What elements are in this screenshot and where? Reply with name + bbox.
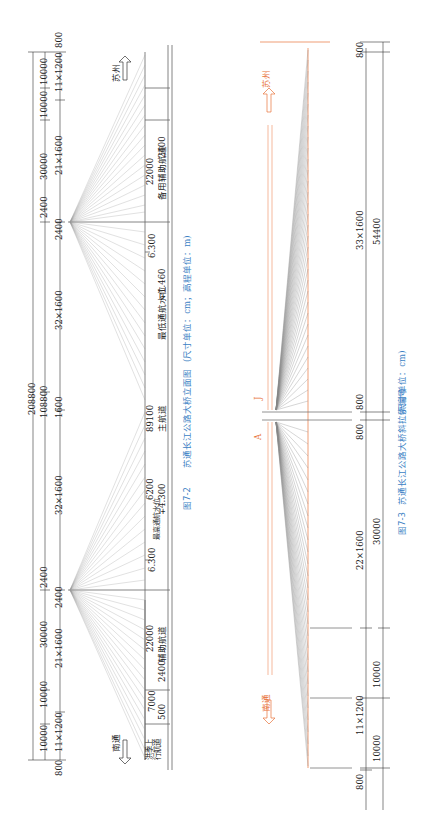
cable-fan-7-3 [276,50,308,766]
dim-tower-bot-2400-b: 2400 [55,586,64,608]
dim-7-3-bot-11x1200: 11×1200 [356,695,365,735]
dim-flood-width: 7000 [148,690,157,712]
dim-tower-top-2400-b: 2400 [55,218,64,240]
direction-suzhou: 苏州 [112,64,121,82]
dim-main-channel-offset: 6200 [146,478,155,500]
dim-bot-11x1200: 11×1200 [55,712,64,752]
dim-top-11x1200: 11×1200 [55,52,64,92]
dim-bot-21x1600: 21×1600 [55,628,64,668]
cable-fan-lower [70,412,145,758]
dim-backup-aux-offset: 2400 [158,136,167,158]
direction-nantong: 南通 [112,734,121,752]
dim-tower-top-2400-a: 2400 [40,196,49,218]
dim-mid-32x1600-b: 32×1600 [55,475,64,515]
dim-7-3-bot-10000-b: 10000 [373,735,382,762]
elev-bottom: 6.300 [148,548,157,572]
dim-total: 208800 [28,383,37,415]
dim-1600: 1600 [55,396,64,418]
cable-number-circles [268,125,272,675]
dim-top-10000-a: 10000 [40,58,49,85]
figure-7-2-title: 苏通长江公路大桥立面图 [183,369,192,468]
dim-mid-32x1600-a: 32×1600 [55,290,64,330]
dim-main-channel-width: 89100 [146,405,155,432]
dim-bot-30000: 30000 [40,621,49,648]
figure-7-3-units: (尺寸单位：cm) [398,351,407,415]
elev-top: 6.300 [148,234,157,258]
document-page: 208800 108800 1600 800 10000 10000 11×12… [0,0,426,827]
dim-7-3-bot-800: 800 [356,774,365,790]
figure-7-2-number: 图7-2 [183,487,192,510]
dim-7-3-bot-10000-a: 10000 [373,661,382,688]
figure-7-3-number: 图7-3 [398,512,407,535]
dim-aux-width: 22000 [146,625,155,652]
arrow-up-orange-icon [263,88,275,112]
section-mark-j: J [254,397,263,400]
section-mark-a: A [254,434,263,440]
dim-bot-10000-b: 10000 [40,725,49,752]
dim-bot-800: 800 [55,760,64,776]
dim-tower-bot-2400-a: 2400 [40,566,49,588]
dim-bot-10000-a: 10000 [40,681,49,708]
dim-aux-offset: 2400 [158,660,167,682]
dim-flood-offset: 500 [158,704,167,720]
value-highest-water: ∓4.300 [158,484,167,515]
dim-7-3-top-54400: 54400 [373,218,382,245]
dim-main-span: 108800 [40,386,49,418]
label-aux-channel: 辅助航道 [158,626,167,662]
figure-7-2-units: (尺寸单位：cm；高程单位：m) [183,235,192,362]
label-main-channel: 主航道 [158,405,167,432]
cable-fan-upper [70,55,145,400]
direction-nantong-7-3: 南通 [262,694,271,712]
direction-suzhou-7-3: 苏州 [262,70,271,88]
dim-7-3-center-800-b: 800 [356,424,365,440]
label-flood-channel: 洪季上行航道 [146,734,161,760]
dim-7-3-bot-22x1600: 22×1600 [356,530,365,570]
dim-top-30000: 30000 [40,153,49,180]
dim-top-800: 800 [55,32,64,48]
dim-7-3-top-33x1600: 33×1600 [356,210,365,250]
dim-7-3-bot-30000: 30000 [373,518,382,545]
dim-7-3-top-800: 800 [356,42,365,58]
dim-7-3-center-800-a: 800 [356,394,365,410]
dim-top-21x1600: 21×1600 [55,135,64,175]
dim-backup-aux-width: 22000 [146,158,155,185]
dim-top-10000-b: 10000 [40,91,49,118]
value-lowest-water: ∓1.460 [158,269,167,300]
